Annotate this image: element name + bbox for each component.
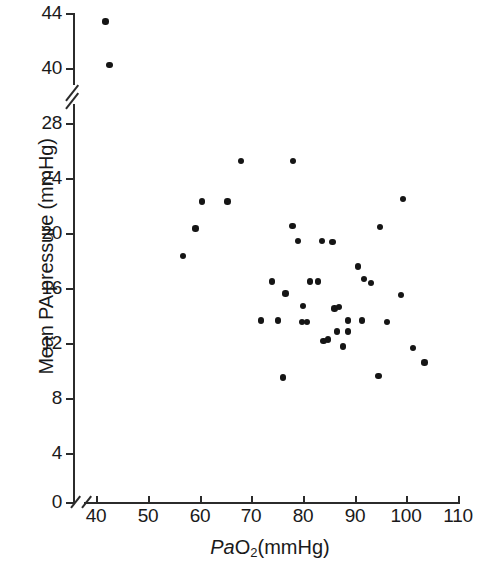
data-point: [295, 238, 301, 244]
data-point: [329, 239, 335, 245]
data-point: [289, 223, 295, 229]
data-point: [320, 338, 326, 344]
data-point: [340, 343, 346, 349]
data-point: [180, 253, 186, 259]
data-point: [106, 62, 112, 68]
data-point: [334, 328, 340, 334]
data-point: [199, 198, 205, 204]
data-point: [224, 198, 230, 204]
data-point: [307, 278, 313, 284]
data-point: [368, 280, 374, 286]
data-point: [398, 292, 404, 298]
data-point: [102, 18, 108, 24]
data-point: [345, 317, 351, 323]
data-point: [315, 278, 321, 284]
data-point: [361, 276, 367, 282]
data-point: [400, 196, 406, 202]
data-point: [359, 317, 365, 323]
data-point: [269, 278, 275, 284]
data-point: [290, 158, 296, 164]
data-point: [300, 303, 306, 309]
data-point: [275, 317, 281, 323]
data-point: [355, 263, 361, 269]
data-point: [375, 373, 381, 379]
data-point: [282, 290, 288, 296]
data-point: [384, 319, 390, 325]
data-point: [331, 305, 337, 311]
data-point: [421, 359, 427, 365]
data-point: [319, 238, 325, 244]
data-point: [258, 317, 264, 323]
data-point: [280, 374, 286, 380]
data-point: [304, 319, 310, 325]
data-point: [377, 224, 383, 230]
data-point-layer: [0, 0, 492, 569]
data-point: [238, 158, 244, 164]
data-point: [192, 225, 198, 231]
data-point: [345, 328, 351, 334]
data-point: [410, 345, 416, 351]
scatter-plot-figure: 44 40 28 24 20 16 12 8 4 0 40 50 60 70 8…: [0, 0, 492, 569]
